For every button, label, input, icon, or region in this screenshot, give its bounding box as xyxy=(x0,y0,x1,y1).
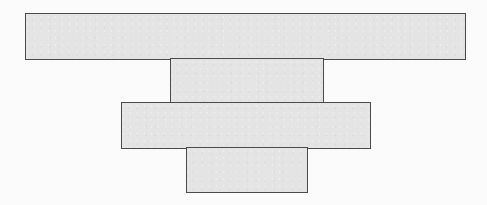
block-bottom-narrow xyxy=(186,147,308,193)
block-second-narrow xyxy=(170,58,324,104)
block-third-medium xyxy=(121,102,371,149)
block-top-wide xyxy=(25,13,466,60)
diagram-canvas xyxy=(0,0,487,205)
